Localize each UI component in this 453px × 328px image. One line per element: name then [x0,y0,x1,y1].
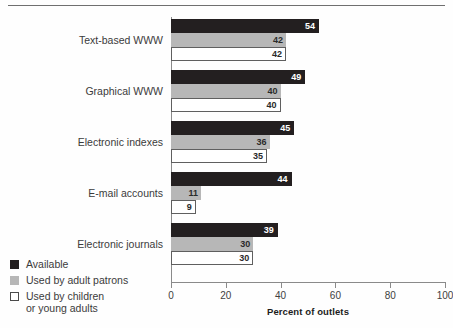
bar-value-label: 30 [239,254,249,263]
legend-label: Available [26,258,68,270]
x-axis-tick [445,283,446,288]
bar: 36 [171,135,270,149]
category-label: Text-based WWW [79,34,163,46]
bar: 42 [171,33,286,47]
x-axis-tick-label: 100 [437,290,453,301]
x-axis-line [171,282,446,283]
legend-label: Used by children or young adults [26,290,104,314]
x-axis-tick [281,283,282,288]
x-axis-tick-label: 20 [220,290,231,301]
bar-value-label: 9 [187,203,192,212]
x-axis-tick [335,283,336,288]
bar: 54 [171,19,319,33]
bar-value-label: 42 [272,50,282,59]
legend-label: Used by adult patrons [26,274,128,286]
legend-item: Used by children or young adults [10,290,175,314]
white-swatch [10,292,19,301]
bar-value-label: 40 [268,87,278,96]
category-label: Graphical WWW [85,85,163,97]
x-axis-tick [226,283,227,288]
bar-value-label: 11 [189,189,199,198]
bar-value-label: 39 [264,226,274,235]
bar: 30 [171,237,253,251]
bar: 45 [171,121,294,135]
bar-value-label: 54 [305,22,315,31]
chart-figure: Percent of outlets 020406080100Text-base… [0,0,453,328]
bar: 42 [171,47,286,61]
x-axis-tick-label: 60 [330,290,341,301]
bar: 35 [171,149,267,163]
bar: 40 [171,98,281,112]
bar-value-label: 44 [278,175,288,184]
bar-value-label: 40 [267,101,277,110]
bar: 30 [171,251,253,265]
category-label: E-mail accounts [88,187,163,199]
bar-value-label: 35 [253,152,263,161]
bar: 9 [171,200,196,214]
bar-value-label: 30 [240,240,250,249]
legend-item: Available [10,258,175,270]
legend-item: Used by adult patrons [10,274,175,286]
bar: 39 [171,223,278,237]
x-axis-tick-label: 40 [275,290,286,301]
bar: 49 [171,70,305,84]
bar: 40 [171,84,281,98]
gray-swatch [10,276,19,285]
bar: 44 [171,172,292,186]
category-label: Electronic indexes [78,136,163,148]
x-axis-title: Percent of outlets [267,306,349,317]
black-swatch [10,260,19,269]
bar-value-label: 45 [280,124,290,133]
x-axis-tick-label: 80 [385,290,396,301]
bar: 11 [171,186,201,200]
chart-legend: AvailableUsed by adult patronsUsed by ch… [10,258,175,318]
x-axis-tick [390,283,391,288]
bar-value-label: 49 [291,73,301,82]
category-label: Electronic journals [77,238,163,250]
bar-value-label: 42 [273,36,283,45]
bar-value-label: 36 [257,138,267,147]
